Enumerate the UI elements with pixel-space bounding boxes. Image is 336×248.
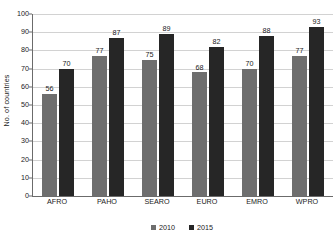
bar[interactable] <box>159 34 174 196</box>
bar[interactable] <box>242 69 257 196</box>
bar[interactable] <box>92 56 107 196</box>
y-axis-tick-label: 30 <box>21 138 29 145</box>
bar-group: 7088 <box>242 14 274 196</box>
bar[interactable] <box>192 72 207 196</box>
x-axis-tick-label: WPRO <box>291 198 323 205</box>
bar[interactable] <box>292 56 307 196</box>
x-axis-tick-label: AFRO <box>41 198 73 205</box>
legend-item[interactable]: 2010 <box>151 224 175 231</box>
legend-label: 2010 <box>159 224 175 231</box>
bar[interactable] <box>59 69 74 196</box>
bar-group: 5670 <box>42 14 74 196</box>
plot-area: 567077877589688270887793 <box>32 14 333 197</box>
bar-group: 6882 <box>192 14 224 196</box>
legend-swatch-icon <box>189 225 194 230</box>
bar-wrapper: 89 <box>159 14 174 196</box>
bar-wrapper: 70 <box>59 14 74 196</box>
bar-group: 7589 <box>142 14 174 196</box>
bar-value-label: 87 <box>113 29 121 36</box>
y-axis-tick-label: 60 <box>21 83 29 90</box>
x-axis-tick-label: EMRO <box>241 198 273 205</box>
bar-value-label: 88 <box>263 27 271 34</box>
y-axis-tick-label: 50 <box>21 101 29 108</box>
x-axis-tick-label: SEARO <box>141 198 173 205</box>
bar-value-label: 89 <box>163 25 171 32</box>
bar-value-label: 77 <box>96 47 104 54</box>
bar[interactable] <box>109 38 124 196</box>
bar-wrapper: 56 <box>42 14 57 196</box>
x-axis-tick-label: EURO <box>191 198 223 205</box>
y-axis-tick-label: 10 <box>21 174 29 181</box>
chart-legend: 20102015 <box>32 222 332 234</box>
bar-value-label: 68 <box>196 64 204 71</box>
bar-group: 7787 <box>92 14 124 196</box>
bar-value-label: 70 <box>246 60 254 67</box>
y-axis-tick-label: 40 <box>21 120 29 127</box>
y-axis-title-text: No. of countries <box>3 74 12 126</box>
bar-wrapper: 87 <box>109 14 124 196</box>
bar[interactable] <box>42 94 57 196</box>
bar-chart: No. of countries 1009080706050403020100 … <box>0 0 336 248</box>
bar-groups: 567077877589688270887793 <box>33 14 333 196</box>
bar-value-label: 82 <box>213 38 221 45</box>
x-axis-tick-labels: AFROPAHOSEAROEUROEMROWPRO <box>32 198 332 212</box>
bar-value-label: 56 <box>46 85 54 92</box>
y-axis-tick-label: 20 <box>21 156 29 163</box>
legend-swatch-icon <box>151 225 156 230</box>
bar[interactable] <box>142 60 157 197</box>
legend-label: 2015 <box>197 224 213 231</box>
bar-value-label: 93 <box>313 18 321 25</box>
y-axis-title: No. of countries <box>0 0 14 200</box>
y-axis-tick-label: 90 <box>21 29 29 36</box>
bar-wrapper: 70 <box>242 14 257 196</box>
bar-wrapper: 77 <box>92 14 107 196</box>
bar-wrapper: 68 <box>192 14 207 196</box>
bar-value-label: 70 <box>63 60 71 67</box>
x-axis-tick-label: PAHO <box>91 198 123 205</box>
y-axis-tick-label: 80 <box>21 47 29 54</box>
legend-item[interactable]: 2015 <box>189 224 213 231</box>
bar-group: 7793 <box>292 14 324 196</box>
bar[interactable] <box>309 27 324 196</box>
y-axis-tick-labels: 1009080706050403020100 <box>14 14 32 196</box>
bar[interactable] <box>209 47 224 196</box>
y-axis-tick-label: 70 <box>21 65 29 72</box>
bar[interactable] <box>259 36 274 196</box>
bar-value-label: 75 <box>146 51 154 58</box>
bar-wrapper: 82 <box>209 14 224 196</box>
bar-value-label: 77 <box>296 47 304 54</box>
bar-wrapper: 77 <box>292 14 307 196</box>
bar-wrapper: 88 <box>259 14 274 196</box>
bar-wrapper: 75 <box>142 14 157 196</box>
y-axis-tick-label: 100 <box>17 10 29 17</box>
bar-wrapper: 93 <box>309 14 324 196</box>
